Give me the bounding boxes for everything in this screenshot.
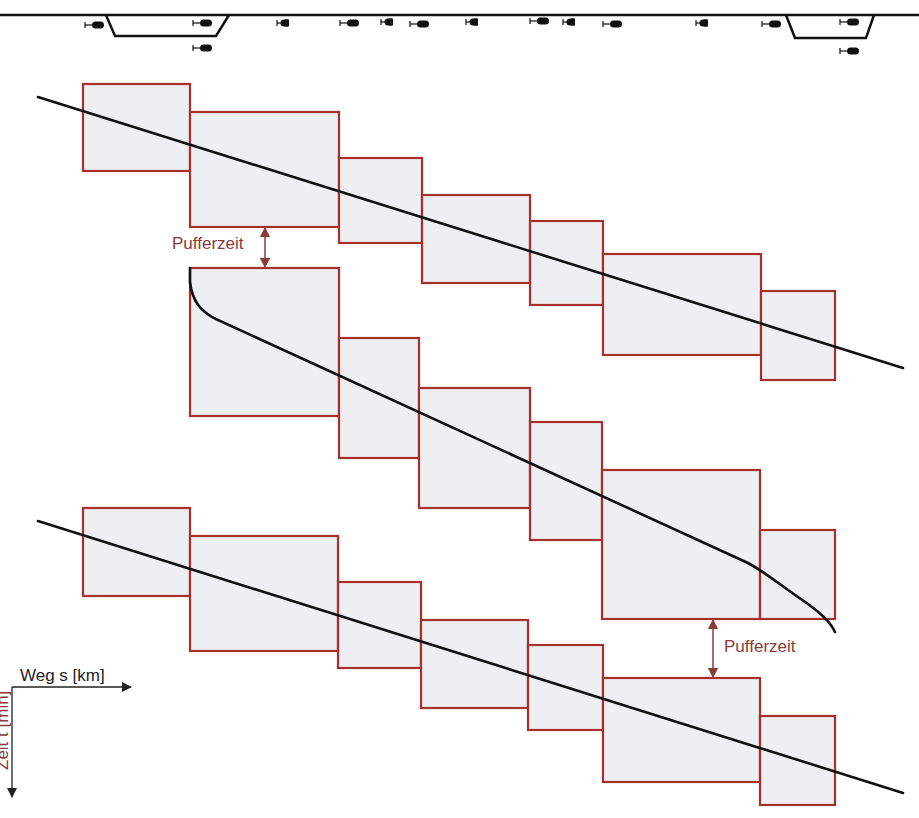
signal-icon xyxy=(762,21,781,28)
signal-icon xyxy=(85,22,104,29)
track-layout xyxy=(0,15,919,55)
x-axis-label: Weg s [km] xyxy=(20,666,105,685)
buffer-time-label: Pufferzeit xyxy=(724,637,796,656)
blocking-time-box xyxy=(602,470,760,619)
blocking-time-box xyxy=(760,530,835,619)
signal-icon xyxy=(563,19,575,26)
blocking-time-box xyxy=(339,158,422,243)
signal-icon xyxy=(696,20,708,27)
signal-icon xyxy=(466,19,478,26)
signal-icon xyxy=(340,20,359,27)
signal-icon xyxy=(193,45,212,52)
train-paths-group xyxy=(38,84,903,805)
blocking-time-diagram: PufferzeitPufferzeit Weg s [km]Zeit t [m… xyxy=(0,0,919,818)
signal-icon xyxy=(193,20,212,27)
blocking-time-box xyxy=(603,678,760,782)
blocking-time-box xyxy=(419,388,530,508)
blocking-time-box xyxy=(421,620,528,708)
blocking-time-box xyxy=(339,338,419,458)
blocking-time-box xyxy=(603,254,761,355)
blocking-time-box xyxy=(190,112,339,227)
y-axis-label: Zeit t [min] xyxy=(0,691,12,770)
blocking-time-box xyxy=(530,422,602,540)
blocking-time-box xyxy=(338,582,421,668)
signal-icon xyxy=(840,19,859,26)
axes-group: Weg s [km]Zeit t [min] xyxy=(0,666,131,797)
signal-icon xyxy=(277,20,289,27)
signal-icon xyxy=(381,19,393,26)
siding-track xyxy=(786,15,874,38)
signal-icon xyxy=(410,21,429,28)
train-1-time-distance-line xyxy=(38,97,903,368)
signal-icon xyxy=(840,48,859,55)
blocking-time-box xyxy=(190,536,338,651)
blocking-time-box xyxy=(422,195,530,283)
signal-icon xyxy=(603,21,622,28)
signal-icon xyxy=(530,18,549,25)
buffer-time-label: Pufferzeit xyxy=(172,234,244,253)
